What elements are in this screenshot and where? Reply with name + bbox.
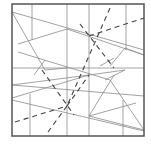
crease-line — [18, 29, 67, 44]
dashed-line — [80, 24, 114, 68]
dashed-line — [48, 106, 67, 132]
solid-crease-lines — [12, 4, 144, 136]
crease-line — [110, 48, 125, 66]
dashed-line — [67, 75, 89, 106]
crease-pattern-canvas — [0, 0, 151, 148]
dashed-line — [15, 106, 67, 122]
crease-line — [100, 58, 114, 66]
crease-line — [12, 100, 144, 131]
crease-line — [18, 52, 110, 80]
crease-line — [12, 75, 89, 98]
crease-pattern-diagram — [0, 0, 151, 148]
dashed-line — [89, 18, 144, 36]
